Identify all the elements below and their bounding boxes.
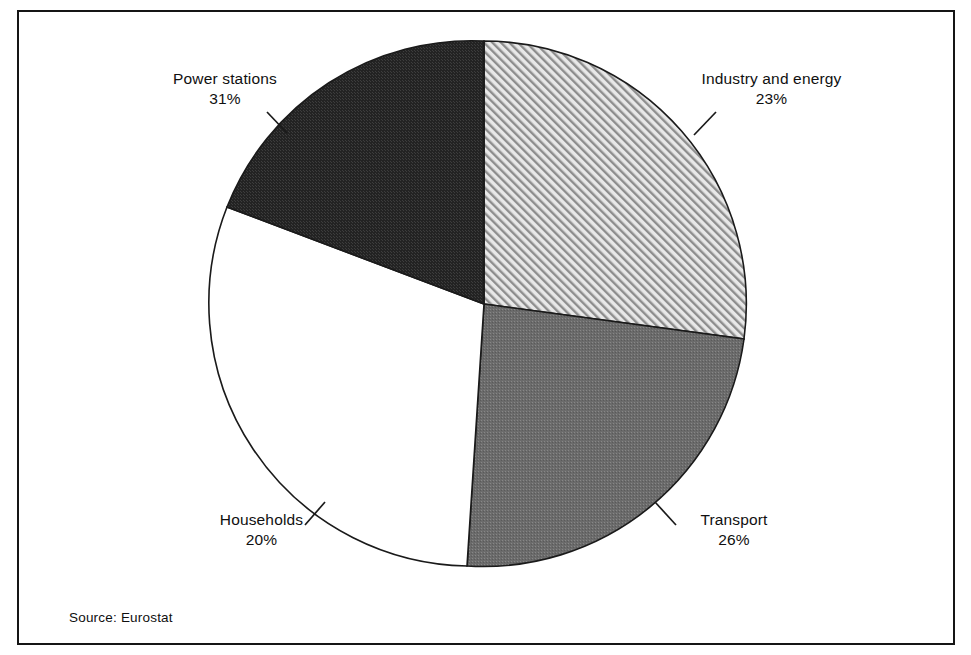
pie-label-transport-name: Transport <box>649 510 819 530</box>
pie-label-transport-value: 26% <box>649 530 819 550</box>
pie-label-households-value: 20% <box>174 530 349 550</box>
pie-label-households-name: Households <box>174 510 349 530</box>
leader-line-industry-and-energy <box>694 112 716 135</box>
pie-label-transport: Transport 26% <box>649 510 819 550</box>
pie-label-power-stations-name: Power stations <box>130 69 320 89</box>
pie-label-power-stations: Power stations 31% <box>130 69 320 109</box>
pie-chart: Power stations 31% Industry and energy 2… <box>19 12 957 647</box>
pie-label-industry-and-energy: Industry and energy 23% <box>664 69 879 109</box>
pie-label-industry-and-energy-name: Industry and energy <box>664 69 879 89</box>
pie-label-households: Households 20% <box>174 510 349 550</box>
figure-frame: Power stations 31% Industry and energy 2… <box>17 10 955 645</box>
pie-label-power-stations-value: 31% <box>130 89 320 109</box>
pie-label-industry-and-energy-value: 23% <box>664 89 879 109</box>
source-caption: Source: Eurostat <box>69 610 173 625</box>
